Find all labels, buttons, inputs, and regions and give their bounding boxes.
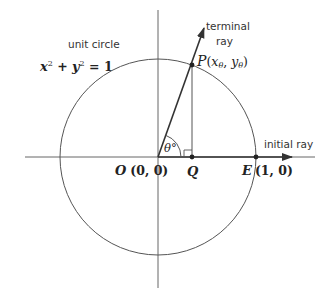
- unit-circle-equation: x2 + y2 = 1: [39, 59, 113, 74]
- point-p-dot: [190, 63, 195, 68]
- point-q-dot: [190, 155, 195, 160]
- point-e-dot: [254, 155, 259, 160]
- unit-circle-label: unit circle: [68, 38, 120, 50]
- initial-ray-label: initial ray: [264, 138, 313, 150]
- terminal-ray-label-line2: ray: [216, 35, 233, 47]
- point-e-label: E(1, 0): [241, 163, 293, 178]
- point-p-label: P(xθ, yθ): [196, 53, 248, 70]
- terminal-ray: [158, 28, 204, 157]
- origin-label: O(0, 0): [115, 163, 168, 178]
- point-q-label: Q: [187, 164, 199, 179]
- unit-circle-diagram: unit circle x2 + y2 = 1 terminal ray P(x…: [0, 0, 331, 304]
- angle-theta-label: θ°: [164, 141, 177, 155]
- terminal-ray-label-line1: terminal: [206, 20, 250, 32]
